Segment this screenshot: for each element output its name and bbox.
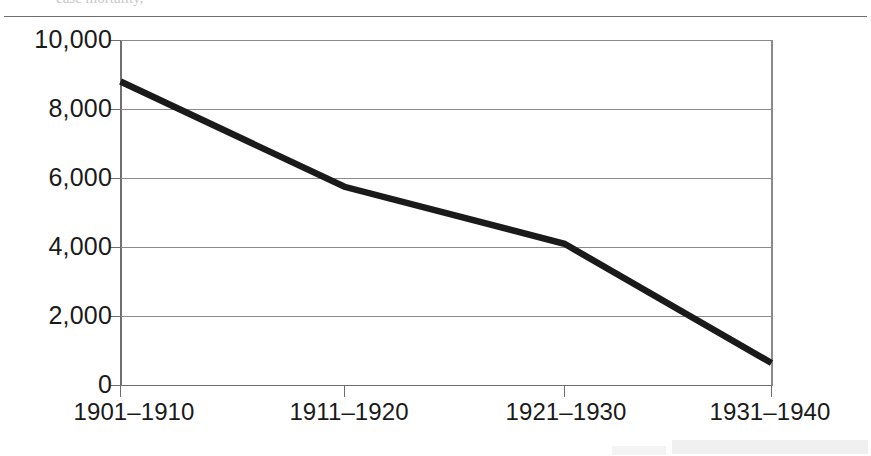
y-tick-label: 10,000	[12, 27, 112, 52]
x-tick-label: 1911–1920	[249, 398, 449, 426]
data-series-line	[121, 82, 772, 364]
y-tick-label: 2,000	[12, 303, 112, 328]
scan-artifact-smudge	[672, 440, 868, 454]
chart-plot-area	[0, 0, 871, 456]
x-axis-ticks	[121, 386, 772, 397]
x-tick-label: 1921–1930	[466, 398, 666, 426]
y-tick-label: 4,000	[12, 234, 112, 259]
y-tick-label: 8,000	[12, 96, 112, 121]
scan-artifact-smudge-secondary	[612, 446, 666, 455]
x-tick-label: 1931–1940	[670, 398, 870, 426]
x-axis-labels: 1901–1910 1911–1920 1921–1930 1931–1940	[0, 398, 871, 438]
y-tick-label: 0	[12, 372, 112, 397]
y-axis-labels: 10,000 8,000 6,000 4,000 2,000 0	[4, 0, 112, 456]
y-tick-label: 6,000	[12, 165, 112, 190]
line-chart: 10,000 8,000 6,000 4,000 2,000 0 1901–19…	[0, 0, 871, 456]
x-tick-label: 1901–1910	[34, 398, 234, 426]
gridlines-horizontal	[121, 110, 772, 386]
